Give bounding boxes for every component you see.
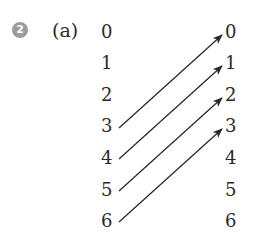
mapping-arrows (0, 0, 264, 242)
arrow-3-to-0 (119, 35, 222, 128)
arrow-6-to-3 (119, 129, 222, 222)
